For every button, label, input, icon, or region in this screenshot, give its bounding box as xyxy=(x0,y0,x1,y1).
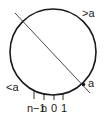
label-greater-than-a: >a xyxy=(82,7,95,19)
tick-label-n: n xyxy=(41,102,47,114)
tick-label-0: 0 xyxy=(51,102,57,114)
dividing-line xyxy=(15,13,90,93)
number-circle-diagram: >a <a a n−1 n 0 1 xyxy=(0,0,104,117)
point-a-marker xyxy=(82,83,86,87)
label-a: a xyxy=(88,77,95,89)
tick-label-1: 1 xyxy=(61,102,67,114)
label-less-than-a: <a xyxy=(6,81,19,93)
